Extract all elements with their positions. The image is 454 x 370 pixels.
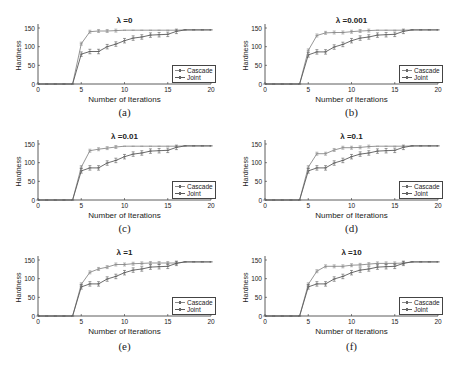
svg-text:0: 0 [263,202,267,209]
y-axis-label: Hardness [15,157,22,187]
svg-text:100: 100 [24,159,35,166]
legend-item-joint: Joint [187,74,201,81]
legend-item-cascade: Cascade [187,67,213,74]
svg-text:15: 15 [164,202,172,209]
svg-text:50: 50 [255,62,263,69]
svg-text:0: 0 [36,86,40,93]
svg-text:100: 100 [251,275,262,282]
svg-text:0: 0 [258,81,262,88]
svg-text:5: 5 [79,318,83,325]
svg-text:0: 0 [36,318,40,325]
y-axis-label: Hardness [242,157,249,187]
x-axis-label: Number of Iterations [38,327,211,336]
svg-text:10: 10 [121,318,129,325]
chart-title: λ =1 [38,248,211,257]
svg-text:15: 15 [391,318,399,325]
svg-text:20: 20 [207,202,215,209]
y-axis-label: Hardness [242,41,249,71]
svg-text:150: 150 [251,141,262,148]
svg-text:10: 10 [348,318,356,325]
svg-text:10: 10 [348,86,356,93]
chart-legend: Cascade Joint [172,297,216,315]
legend-item-joint: Joint [187,190,201,197]
legend-item-joint: Joint [187,306,201,313]
svg-text:5: 5 [79,202,83,209]
legend-item-cascade: Cascade [187,183,213,190]
svg-text:150: 150 [24,141,35,148]
y-axis-label: Hardness [242,273,249,303]
svg-text:0: 0 [258,313,262,320]
chart-title: λ =0.1 [265,132,438,141]
svg-text:50: 50 [255,294,263,301]
svg-text:150: 150 [251,25,262,32]
svg-text:100: 100 [251,43,262,50]
svg-text:20: 20 [207,318,215,325]
chart-legend: Cascade Joint [399,297,443,315]
legend-item-joint: Joint [414,190,428,197]
x-axis-label: Number of Iterations [38,211,211,220]
legend-item-cascade: Cascade [414,67,440,74]
svg-text:20: 20 [207,86,215,93]
svg-text:5: 5 [79,86,83,93]
svg-text:0: 0 [36,202,40,209]
x-axis-label: Number of Iterations [265,211,438,220]
y-axis-label: Hardness [15,41,22,71]
chart-panel-b: 05010015005101520 λ =0.001 Hardness Numb… [227,0,454,120]
chart-title: λ =10 [265,248,438,257]
svg-text:20: 20 [434,318,442,325]
chart-panel-e: 05010015005101520 λ =1 Hardness Number o… [0,232,227,352]
svg-text:15: 15 [391,86,399,93]
chart-title: λ =0 [38,16,211,25]
svg-text:15: 15 [164,86,172,93]
svg-text:0: 0 [263,318,267,325]
legend-item-cascade: Cascade [187,299,213,306]
svg-text:50: 50 [255,178,263,185]
svg-text:50: 50 [28,294,36,301]
svg-text:50: 50 [28,178,36,185]
svg-text:10: 10 [121,86,129,93]
svg-text:50: 50 [28,62,36,69]
svg-text:0: 0 [31,81,35,88]
svg-text:10: 10 [348,202,356,209]
svg-text:20: 20 [434,202,442,209]
svg-text:150: 150 [24,25,35,32]
legend-item-cascade: Cascade [414,183,440,190]
svg-text:0: 0 [263,86,267,93]
chart-legend: Cascade Joint [172,65,216,83]
chart-panel-d: 05010015005101520 λ =0.1 Hardness Number… [227,116,454,236]
svg-text:100: 100 [24,43,35,50]
svg-text:150: 150 [251,257,262,264]
panel-caption: (f) [265,340,438,352]
y-axis-label: Hardness [15,273,22,303]
panel-caption: (e) [38,340,211,352]
x-axis-label: Number of Iterations [265,327,438,336]
svg-text:5: 5 [306,318,310,325]
svg-text:10: 10 [121,202,129,209]
chart-legend: Cascade Joint [399,181,443,199]
svg-text:150: 150 [24,257,35,264]
chart-panel-a: 05010015005101520 λ =0 Hardness Number o… [0,0,227,120]
x-axis-label: Number of Iterations [265,95,438,104]
svg-text:0: 0 [258,197,262,204]
svg-text:100: 100 [251,159,262,166]
legend-item-joint: Joint [414,74,428,81]
svg-text:15: 15 [391,202,399,209]
chart-title: λ =0.01 [38,132,211,141]
svg-text:0: 0 [31,197,35,204]
svg-text:5: 5 [306,86,310,93]
legend-item-joint: Joint [414,306,428,313]
svg-text:0: 0 [31,313,35,320]
svg-text:20: 20 [434,86,442,93]
chart-title: λ =0.001 [265,16,438,25]
svg-text:15: 15 [164,318,172,325]
chart-legend: Cascade Joint [399,65,443,83]
svg-text:100: 100 [24,275,35,282]
chart-legend: Cascade Joint [172,181,216,199]
chart-panel-f: 05010015005101520 λ =10 Hardness Number … [227,232,454,352]
svg-text:5: 5 [306,202,310,209]
x-axis-label: Number of Iterations [38,95,211,104]
legend-item-cascade: Cascade [414,299,440,306]
chart-panel-c: 05010015005101520 λ =0.01 Hardness Numbe… [0,116,227,236]
